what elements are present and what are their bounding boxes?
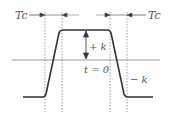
arrowhead-right-icon bbox=[40, 13, 45, 17]
arrowhead-left-icon bbox=[62, 13, 67, 17]
tc-left-dimension bbox=[29, 13, 79, 17]
arrowhead-left-icon bbox=[127, 13, 132, 17]
arrowhead-up-icon bbox=[84, 31, 89, 37]
arrowhead-right-icon bbox=[105, 13, 110, 17]
plus-k-arrow bbox=[84, 31, 89, 59]
plus-k-label: + k bbox=[89, 41, 107, 52]
tc-right-dimension bbox=[96, 13, 146, 17]
arrowhead-down-icon bbox=[84, 53, 89, 59]
tc-left-label: Tc bbox=[15, 9, 28, 22]
minus-k-label: − k bbox=[130, 74, 148, 85]
tc-right-label: Tc bbox=[148, 9, 161, 22]
t-zero-label: t = 0 bbox=[84, 64, 110, 75]
trapezoidal-pulse-diagram: Tc Tc + k t = 0 − k bbox=[0, 0, 171, 120]
dashed-guides bbox=[45, 12, 127, 112]
